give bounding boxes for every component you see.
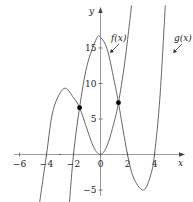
intersection-dot: [77, 105, 82, 110]
f-arrow-icon: [112, 44, 120, 52]
axes: −6−4−2024 −551015 x y: [13, 6, 185, 196]
g-label: g(x): [174, 33, 192, 43]
g-arrow-icon: [175, 44, 183, 52]
intersection-dot: [116, 100, 121, 105]
x-axis-arrow-icon: [179, 152, 185, 156]
y-tick-label: −5: [83, 185, 97, 195]
minor-tick: [59, 154, 61, 156]
curves: [38, 5, 165, 202]
x-axis-label: x: [178, 158, 183, 168]
x-tick-label: −4: [40, 159, 54, 169]
y-ticks: −551015: [83, 43, 102, 195]
x-tick-label: −2: [67, 159, 80, 169]
annotations: f(x) g(x): [110, 33, 192, 53]
intersection-points: [77, 100, 121, 110]
y-axis-arrow-icon: [98, 7, 102, 13]
y-tick-label: 10: [85, 79, 97, 89]
x-tick-label: −6: [13, 159, 27, 169]
x-tick-label: 0: [98, 159, 104, 169]
function-graph: −6−4−2024 −551015 x y f(x) g(x): [0, 0, 193, 202]
f-label: f(x): [110, 33, 127, 43]
y-tick-label: 5: [91, 114, 97, 124]
y-axis-label: y: [88, 6, 95, 16]
